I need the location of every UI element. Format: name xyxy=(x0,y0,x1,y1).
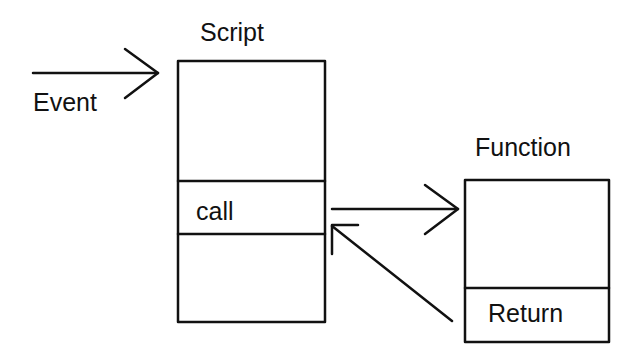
call-arrow-icon xyxy=(332,185,458,234)
function-title: Function xyxy=(475,133,571,162)
return-arrow-icon xyxy=(332,225,452,321)
script-title: Script xyxy=(200,18,264,47)
event-label: Event xyxy=(33,88,97,117)
script-box xyxy=(178,61,325,322)
return-label: Return xyxy=(488,299,563,328)
call-label: call xyxy=(196,197,234,226)
